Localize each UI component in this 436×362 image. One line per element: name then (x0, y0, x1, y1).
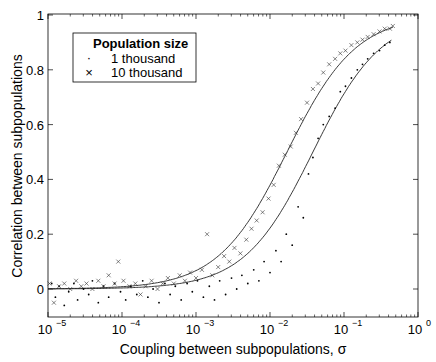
point-10-thousand (200, 268, 204, 272)
point-1-thousand (367, 58, 369, 60)
point-10-thousand (255, 219, 259, 223)
point-1-thousand (88, 294, 90, 296)
point-1-thousand (203, 296, 205, 298)
point-1-thousand (285, 233, 287, 235)
point-10-thousand (305, 101, 309, 105)
point-1-thousand (253, 269, 255, 271)
legend-marker-dot: · (87, 50, 91, 65)
point-1-thousand (180, 299, 182, 301)
point-1-thousand (142, 280, 144, 282)
x-tick-labels: 10−510−410−310−210−1100 (38, 318, 431, 337)
point-10-thousand (349, 43, 353, 47)
point-10-thousand (316, 82, 320, 86)
legend-entry-1-thousand: 1 thousand (111, 51, 175, 66)
point-1-thousand (362, 63, 364, 65)
point-10-thousand (227, 260, 231, 264)
point-1-thousand (186, 283, 188, 285)
x-tick-exponent: −4 (130, 318, 140, 328)
point-10-thousand (178, 273, 182, 277)
point-1-thousand (241, 274, 243, 276)
point-10-thousand (216, 265, 220, 269)
point-10-thousand (62, 282, 66, 286)
x-tick-exponent: −3 (204, 318, 214, 328)
point-1-thousand (152, 288, 154, 290)
point-10-thousand (52, 301, 56, 305)
point-1-thousand (269, 272, 271, 274)
x-tick-exponent: −1 (352, 318, 362, 328)
point-10-thousand (321, 71, 325, 75)
point-1-thousand (164, 283, 166, 285)
legend-marker-x: × (85, 65, 93, 80)
point-1-thousand (97, 302, 99, 304)
point-1-thousand (174, 285, 176, 287)
point-1-thousand (225, 294, 227, 296)
point-10-thousand (338, 51, 342, 55)
point-10-thousand (238, 251, 242, 255)
point-1-thousand (158, 302, 160, 304)
y-tick-label: 0.2 (26, 227, 44, 242)
point-1-thousand (125, 299, 127, 301)
point-10-thousand (333, 57, 337, 61)
point-10-thousand (361, 38, 365, 42)
x-tick-label: 10 (260, 322, 274, 337)
point-10-thousand (311, 87, 315, 91)
point-10-thousand (244, 238, 248, 242)
point-10-thousand (121, 279, 125, 283)
x-tick-label: 10 (38, 322, 52, 337)
point-10-thousand (113, 282, 117, 286)
y-tick-labels: 00.20.40.60.81 (26, 8, 44, 297)
y-tick-label: 0 (37, 282, 44, 297)
x-tick-label: 10 (334, 322, 348, 337)
point-10-thousand (133, 282, 137, 286)
point-1-thousand (356, 69, 358, 71)
point-10-thousand (84, 282, 88, 286)
x-tick-label: 10 (408, 322, 422, 337)
point-1-thousand (302, 217, 304, 219)
point-1-thousand (389, 42, 391, 44)
point-10-thousand (107, 273, 111, 277)
point-10-thousand (267, 197, 271, 201)
point-1-thousand (263, 261, 265, 263)
point-10-thousand (261, 210, 265, 214)
point-1-thousand (351, 77, 353, 79)
point-10-thousand (391, 24, 395, 28)
point-1-thousand (312, 157, 314, 159)
point-10-thousand (222, 254, 226, 258)
chart: 00.20.40.60.81 10−510−410−310−210−1100 C… (0, 0, 436, 362)
point-10-thousand (250, 227, 254, 231)
point-1-thousand (384, 44, 386, 46)
point-1-thousand (339, 91, 341, 93)
legend: Population size · 1 thousand × 10 thousa… (73, 33, 196, 82)
point-1-thousand (379, 50, 381, 52)
point-10-thousand (355, 40, 359, 44)
point-1-thousand (77, 299, 79, 301)
point-10-thousand (166, 276, 170, 280)
point-1-thousand (308, 173, 310, 175)
point-10-thousand (194, 276, 198, 280)
y-tick-label: 0.6 (26, 118, 44, 133)
point-1-thousand (219, 280, 221, 282)
point-10-thousand (150, 279, 154, 283)
point-10-thousand (172, 282, 176, 286)
point-10-thousand (327, 62, 331, 66)
point-1-thousand (108, 296, 110, 298)
point-10-thousand (299, 117, 303, 121)
point-1-thousand (197, 280, 199, 282)
point-10-thousand (156, 287, 160, 291)
y-tick-label: 0.8 (26, 63, 44, 78)
y-tick-label: 1 (37, 8, 44, 23)
y-axis-label: Correlation between subpopulations (9, 54, 25, 277)
x-tick-label: 10 (186, 322, 200, 337)
point-10-thousand (74, 279, 78, 283)
point-1-thousand (334, 107, 336, 109)
point-10-thousand (343, 49, 347, 53)
point-1-thousand (92, 280, 94, 282)
point-1-thousand (68, 291, 70, 293)
point-1-thousand (231, 277, 233, 279)
point-10-thousand (116, 260, 120, 264)
point-1-thousand (275, 250, 277, 252)
point-1-thousand (214, 299, 216, 301)
point-1-thousand (73, 283, 75, 285)
point-10-thousand (183, 279, 187, 283)
legend-entry-10-thousand: 10 thousand (111, 65, 183, 80)
